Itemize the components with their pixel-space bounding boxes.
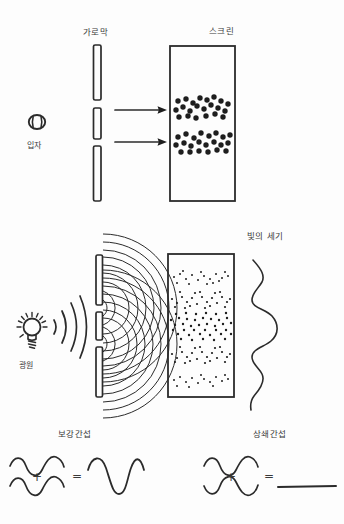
particle-ball-icon xyxy=(29,115,45,129)
destructive-equals-sign: = xyxy=(264,470,274,482)
particle-band-lower xyxy=(173,130,232,154)
barrier-wave xyxy=(96,255,103,397)
destructive-interference-label: 상쇄간섭 xyxy=(253,430,287,439)
bulb-wave-arcs xyxy=(54,296,87,358)
constructive-equals-sign: = xyxy=(72,470,82,482)
light-source-label: 광원 xyxy=(19,362,34,370)
wavefronts-lower-slit xyxy=(103,270,177,418)
wavefronts-upper-slit xyxy=(103,234,177,382)
intensity-curve xyxy=(251,260,278,410)
destructive-result-line xyxy=(278,486,336,487)
figure-sheet: 가로막 스크린 입자 xyxy=(0,0,344,524)
destructive-plus-sign: + xyxy=(226,471,236,483)
constructive-result-wave xyxy=(88,458,144,494)
fringe-band-3-central-maximum xyxy=(170,312,232,341)
constructive-plus-sign: + xyxy=(32,471,42,483)
particle-band-upper xyxy=(173,94,230,120)
particle-arrow-upper xyxy=(115,106,167,114)
light-bulb-icon xyxy=(17,313,47,349)
intensity-label: 빛의 세기 xyxy=(247,232,284,241)
fringe-band-5 xyxy=(173,374,229,388)
fringe-band-4 xyxy=(171,346,231,364)
constructive-interference-label: 보강간섭 xyxy=(58,430,92,439)
screen-particle xyxy=(170,46,235,201)
fringe-band-1 xyxy=(173,270,229,285)
fringe-band-2 xyxy=(171,291,231,309)
particle-arrow-lower xyxy=(115,138,167,146)
barrier-particle xyxy=(94,45,102,201)
